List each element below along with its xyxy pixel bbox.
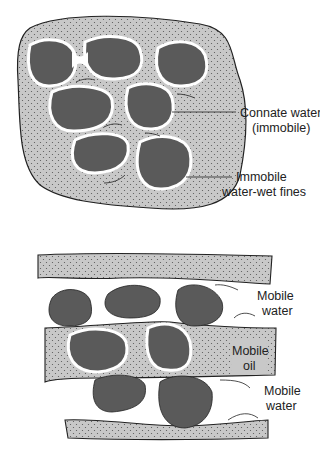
diagram-canvas: Connate water (immobile) Immobile water-…	[0, 0, 320, 453]
label-mobile-oil-1: Mobile	[232, 344, 269, 358]
label-mobile-water-bottom-2: water	[265, 399, 297, 413]
label-fines-1: Immobile	[236, 170, 287, 184]
label-mobile-oil-2: oil	[243, 359, 256, 373]
label-connate-water-1: Connate water	[240, 106, 320, 120]
label-fines-2: water-wet fines	[221, 185, 306, 199]
label-mobile-water-bottom-1: Mobile	[264, 384, 301, 398]
label-mobile-water-top-1: Mobile	[257, 289, 294, 303]
label-connate-water-2: (immobile)	[252, 121, 310, 135]
top-panel: Connate water (immobile) Immobile water-…	[18, 16, 320, 209]
oil-layer-bottom	[65, 420, 268, 440]
label-mobile-water-top-2: water	[261, 304, 293, 318]
bottom-panel: Mobile water Mobile oil Mobile water	[38, 253, 301, 439]
oil-layer-top	[38, 253, 272, 284]
